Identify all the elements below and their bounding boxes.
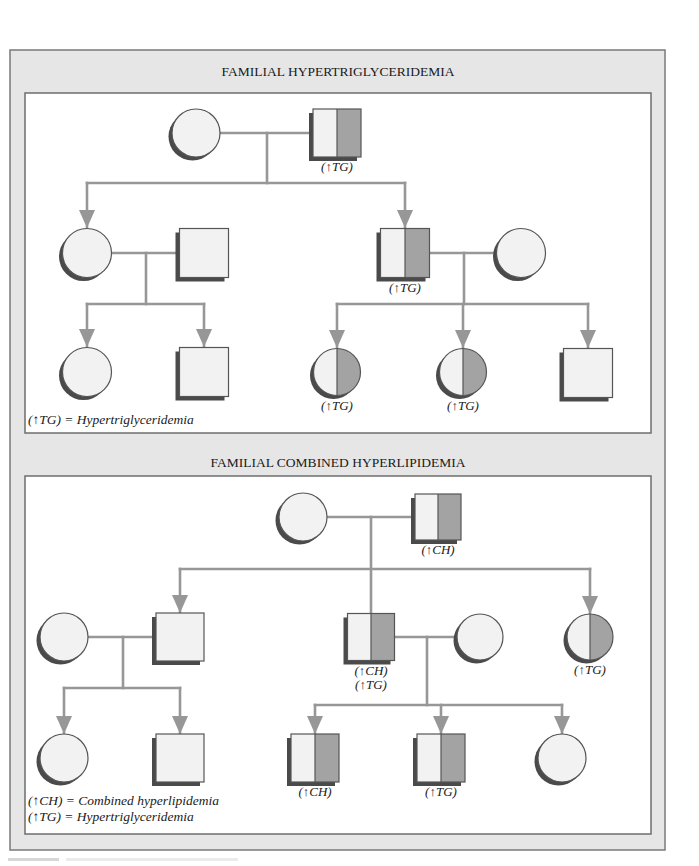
trait-label: (↑TG) (389, 280, 421, 295)
panel-familial-combined-hyperlipidemia: FAMILIAL COMBINED HYPERLIPIDEMIA(↑CH)(↑C… (25, 455, 651, 834)
panel-familial-hypertriglyceridemia: FAMILIAL HYPERTRIGLYCERIDEMIA(↑TG)(↑TG)(… (25, 64, 651, 433)
male-square-icon (344, 614, 395, 665)
male-square-icon (560, 349, 613, 402)
trait-label: (↑TG) (447, 398, 479, 413)
trait-label: (↑TG) (425, 784, 457, 799)
male-square-icon (287, 734, 339, 786)
trait-label: (↑TG) (321, 398, 353, 413)
pedigree-figure: FAMILIAL HYPERTRIGLYCERIDEMIA(↑TG)(↑TG)(… (0, 0, 699, 866)
trait-label: (↑CH) (354, 663, 387, 678)
legend-entry: (↑TG) = Hypertriglyceridemia (28, 412, 194, 427)
male-square-icon (413, 734, 465, 786)
male-square-icon (411, 494, 461, 544)
trait-label: (↑TG) (321, 159, 353, 174)
trait-label: (↑CH) (298, 784, 331, 799)
male-square-icon (152, 613, 204, 665)
legend-entry: (↑TG) = Hypertriglyceridemia (28, 809, 194, 824)
panel-title: FAMILIAL HYPERTRIGLYCERIDEMIA (222, 64, 455, 79)
male-square-icon (309, 109, 361, 161)
male-square-icon (152, 734, 204, 786)
legend-entry: (↑CH) = Combined hyperlipidemia (28, 793, 219, 808)
trait-label: (↑TG) (574, 662, 606, 677)
male-square-icon (176, 229, 229, 282)
male-square-icon (377, 229, 430, 282)
trait-label: (↑TG) (355, 677, 387, 692)
trait-label: (↑CH) (421, 542, 454, 557)
figure-caption-cutoff (8, 858, 238, 861)
pedigree-diagram-canvas: FAMILIAL HYPERTRIGLYCERIDEMIA(↑TG)(↑TG)(… (0, 0, 699, 866)
panel-title: FAMILIAL COMBINED HYPERLIPIDEMIA (211, 455, 466, 470)
male-square-icon (176, 348, 229, 401)
